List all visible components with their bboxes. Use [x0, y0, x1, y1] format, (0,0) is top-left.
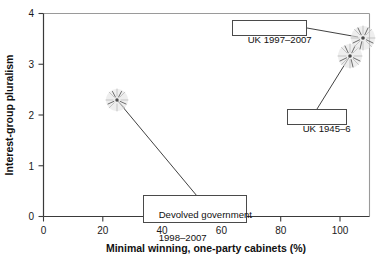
x-tick-label-60: 60 [216, 225, 228, 236]
y-tick-label-1: 1 [28, 161, 34, 172]
x-tick-label-80: 80 [275, 225, 287, 236]
y-axis-title: Interest-group pluralism [3, 55, 15, 176]
callout-devolved-line-1: Devolved government [159, 209, 252, 220]
x-tick-label-20: 20 [97, 225, 109, 236]
x-tick-label-100: 100 [332, 225, 349, 236]
leader-line-devolved [117, 100, 197, 196]
y-tick-label-4: 4 [28, 8, 34, 19]
data-point-uk-1997[interactable] [351, 26, 375, 50]
callout-devolved-line-2: 1998–2007 [159, 232, 207, 243]
leader-line-uk-1997 [307, 28, 358, 37]
x-axis-title: Minimal winning, one-party cabinets (%) [106, 242, 306, 254]
callout-devolved-government[interactable]: Devolved government 1998–2007 [143, 195, 247, 223]
y-tick-label-2: 2 [28, 110, 34, 121]
callout-uk-1945-6-text: UK 1945–6 [303, 123, 351, 134]
y-tick-label-0: 0 [28, 211, 34, 222]
y-axis-ticks [39, 14, 44, 217]
data-point-devolved[interactable] [106, 89, 128, 111]
x-tick-label-0: 0 [41, 225, 47, 236]
chart-figure: 0 1 2 3 4 0 20 40 60 80 100 Minimal winn… [0, 0, 382, 264]
y-tick-label-3: 3 [28, 59, 34, 70]
callout-uk-1997-2007-text: UK 1997–2007 [248, 34, 312, 45]
callout-uk-1997-2007[interactable]: UK 1997–2007 [232, 20, 307, 36]
callout-uk-1945-6[interactable]: UK 1945–6 [287, 109, 347, 125]
